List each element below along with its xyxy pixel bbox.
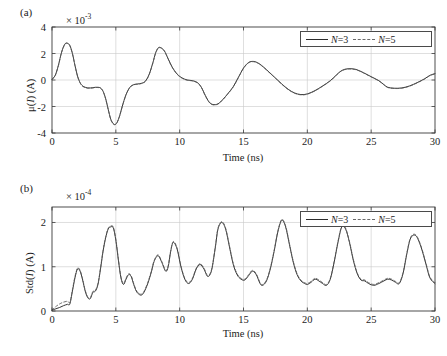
y-tick-label: 2 <box>0 48 46 59</box>
legend-label: N=3 <box>331 34 350 45</box>
chart-panel-b: (b) × 10-4 051015202530012 Time (ns) Std… <box>0 178 447 356</box>
x-tick-label: 10 <box>174 314 185 325</box>
legend-swatch-solid-line <box>306 219 328 220</box>
y-tick-label: -4 <box>0 128 46 139</box>
x-axis-title-a: Time (ns) <box>223 152 264 163</box>
legend-label: N=5 <box>378 34 397 45</box>
y-axis-title-suffix: ) (A) <box>25 79 36 100</box>
legend-swatch-solid-line <box>306 39 328 40</box>
x-tick-label: 20 <box>302 314 313 325</box>
chart-panel-a: (a) × 10-3 051015202530-4-2024 Time (ns)… <box>0 0 447 178</box>
legend-label-variable: N <box>331 214 338 225</box>
y-tick-label: -2 <box>0 101 46 112</box>
legend-entry-2[interactable]: N=5 <box>350 34 397 45</box>
legend-label-variable: N <box>378 214 385 225</box>
y-axis-title-variable: I <box>24 273 35 277</box>
legend-swatch-dashed-line <box>353 39 375 40</box>
y-axis-title-prefix: Std( <box>24 276 35 294</box>
x-tick-label: 5 <box>113 314 118 325</box>
y-tick-label: 1 <box>0 261 46 272</box>
y-tick-label: 0 <box>0 306 46 317</box>
y-tick-label: 2 <box>0 217 46 228</box>
legend-entry-1[interactable]: N=3 <box>303 34 350 45</box>
x-tick-label: 25 <box>366 314 377 325</box>
y-axis-title-prefix: μ( <box>25 103 36 112</box>
legend-label: N=5 <box>378 214 397 225</box>
y-axis-title-suffix: ) (A) <box>24 252 35 273</box>
x-tick-label: 0 <box>49 314 54 325</box>
x-tick-label: 5 <box>113 136 118 147</box>
x-tick-label: 25 <box>366 136 377 147</box>
y-axis-title-variable: I <box>25 99 36 103</box>
x-tick-label: 15 <box>238 136 249 147</box>
x-tick-label: 30 <box>430 136 441 147</box>
legend-b[interactable]: N=3N=5 <box>300 211 432 227</box>
legend-label-variable: N <box>331 34 338 45</box>
y-axis-title-b: Std(I) (A) <box>24 252 35 294</box>
legend-entry-2[interactable]: N=5 <box>350 214 397 225</box>
legend-label-variable: N <box>378 34 385 45</box>
x-tick-label: 10 <box>174 136 185 147</box>
x-tick-label: 0 <box>49 136 54 147</box>
y-tick-label: 4 <box>0 22 46 33</box>
x-tick-label: 30 <box>430 314 441 325</box>
x-tick-label: 20 <box>302 136 313 147</box>
x-tick-label: 15 <box>238 314 249 325</box>
legend-a[interactable]: N=3N=5 <box>300 31 432 47</box>
legend-swatch-dashed-line <box>353 219 375 220</box>
y-axis-title-a: μ(I) (A) <box>25 79 36 112</box>
legend-label: N=3 <box>331 214 350 225</box>
y-tick-label: 0 <box>0 75 46 86</box>
x-axis-title-b: Time (ns) <box>223 328 264 339</box>
legend-entry-1[interactable]: N=3 <box>303 214 350 225</box>
